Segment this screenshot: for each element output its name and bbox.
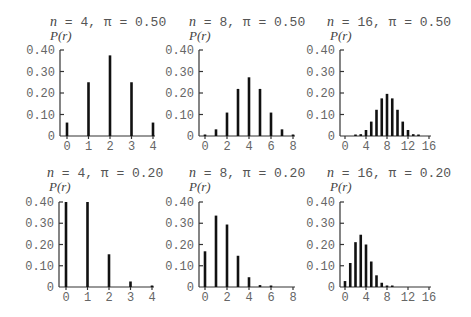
axes: 00.100.200.300.400481216 — [306, 44, 436, 154]
x-tick-label: 4 — [362, 291, 369, 305]
y-tick-label: 0.20 — [165, 87, 194, 101]
subplot-4: n = 4, π = 0.20P(r)00.100.200.300.400123… — [25, 165, 163, 305]
subplot-3: n = 16, π = 0.50P(r)00.100.200.300.40048… — [306, 14, 451, 154]
y-tick-label: 0 — [328, 281, 335, 295]
y-axis-label: P(r) — [188, 28, 211, 43]
subplot-2: n = 8, π = 0.50P(r)00.100.200.300.400246… — [165, 14, 305, 154]
bars — [205, 77, 293, 136]
x-tick-label: 4 — [149, 140, 156, 154]
y-tick-label: 0.40 — [165, 44, 194, 58]
y-tick-label: 0.20 — [25, 239, 54, 253]
bars — [67, 55, 153, 136]
x-tick-label: 0 — [201, 140, 208, 154]
y-tick-label: 0.40 — [306, 44, 335, 58]
y-axis-label: P(r) — [48, 179, 71, 194]
y-tick-label: 0.40 — [306, 196, 335, 210]
y-tick-label: 0.30 — [25, 217, 54, 231]
y-tick-label: 0.40 — [25, 196, 54, 210]
x-tick-label: 0 — [341, 140, 348, 154]
y-tick-label: 0.30 — [26, 66, 55, 80]
x-tick-label: 4 — [148, 291, 155, 305]
y-axis-label: P(r) — [188, 179, 211, 194]
x-tick-label: 1 — [84, 291, 91, 305]
axes: 00.100.200.300.400481216 — [306, 196, 436, 305]
y-tick-label: 0.20 — [306, 239, 335, 253]
y-tick-label: 0.30 — [306, 66, 335, 80]
y-tick-label: 0 — [328, 130, 335, 144]
y-axis-label: P(r) — [329, 28, 352, 43]
y-tick-label: 0.30 — [306, 217, 335, 231]
x-tick-label: 2 — [223, 291, 230, 305]
x-tick-label: 4 — [245, 140, 252, 154]
x-tick-label: 2 — [105, 291, 112, 305]
x-tick-label: 16 — [422, 140, 436, 154]
x-tick-label: 8 — [289, 291, 296, 305]
x-tick-label: 8 — [289, 140, 296, 154]
y-tick-label: 0.20 — [165, 239, 194, 253]
y-tick-label: 0 — [187, 130, 194, 144]
x-tick-label: 3 — [128, 140, 135, 154]
binomial-distribution-figure: n = 4, π = 0.50P(r)00.100.200.300.400123… — [0, 0, 471, 317]
y-tick-label: 0 — [47, 281, 54, 295]
x-tick-label: 0 — [63, 140, 70, 154]
x-tick-label: 12 — [401, 140, 415, 154]
x-tick-label: 4 — [362, 140, 369, 154]
y-tick-label: 0.20 — [26, 87, 55, 101]
x-tick-label: 0 — [341, 291, 348, 305]
subplot-1: n = 4, π = 0.50P(r)00.100.200.300.400123… — [26, 14, 166, 154]
x-tick-label: 12 — [401, 291, 415, 305]
y-axis-label: P(r) — [329, 179, 352, 194]
y-tick-label: 0.10 — [165, 109, 194, 123]
x-tick-label: 0 — [201, 291, 208, 305]
y-tick-label: 0.40 — [26, 44, 55, 58]
x-tick-label: 8 — [383, 140, 390, 154]
bars — [205, 216, 271, 287]
bars — [345, 235, 392, 287]
x-tick-label: 8 — [383, 291, 390, 305]
y-tick-label: 0.10 — [165, 260, 194, 274]
x-tick-label: 2 — [223, 140, 230, 154]
y-tick-label: 0.10 — [25, 260, 54, 274]
axes: 00.100.200.300.4002468 — [165, 196, 296, 305]
bars — [66, 202, 152, 287]
y-tick-label: 0.10 — [306, 109, 335, 123]
y-tick-label: 0 — [48, 130, 55, 144]
x-tick-label: 6 — [267, 140, 274, 154]
y-tick-label: 0 — [187, 281, 194, 295]
y-tick-label: 0.30 — [165, 66, 194, 80]
y-axis-label: P(r) — [49, 28, 72, 43]
axes: 00.100.200.300.4001234 — [26, 44, 156, 154]
bars — [356, 94, 419, 136]
y-tick-label: 0.10 — [306, 260, 335, 274]
subplot-6: n = 16, π = 0.20P(r)00.100.200.300.40048… — [306, 165, 451, 305]
y-tick-label: 0.20 — [306, 87, 335, 101]
axes: 00.100.200.300.4001234 — [25, 196, 155, 305]
x-tick-label: 4 — [245, 291, 252, 305]
axes: 00.100.200.300.4002468 — [165, 44, 296, 154]
subplot-5: n = 8, π = 0.20P(r)00.100.200.300.400246… — [165, 165, 305, 305]
y-tick-label: 0.10 — [26, 109, 55, 123]
y-tick-label: 0.30 — [165, 217, 194, 231]
x-tick-label: 2 — [106, 140, 113, 154]
x-tick-label: 3 — [127, 291, 134, 305]
x-tick-label: 6 — [267, 291, 274, 305]
x-tick-label: 16 — [422, 291, 436, 305]
x-tick-label: 0 — [62, 291, 69, 305]
x-tick-label: 1 — [85, 140, 92, 154]
y-tick-label: 0.40 — [165, 196, 194, 210]
